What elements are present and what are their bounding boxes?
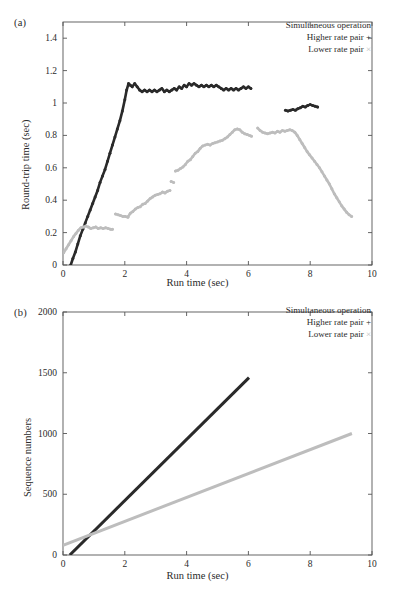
x-tick-label: 4 <box>184 269 189 279</box>
y-tick-label: 0.4 <box>21 195 57 205</box>
y-tick-label: 2000 <box>21 307 57 317</box>
panel-b-x-axis-title: Run time (sec) <box>0 570 395 581</box>
legend-entry-lower-label: Lower rate pair <box>308 329 363 339</box>
x-tick-label: 8 <box>308 269 313 279</box>
plus-marker-icon: + <box>366 32 371 42</box>
x-tick-label: 8 <box>308 559 313 569</box>
x-tick-label: 2 <box>122 559 127 569</box>
panel-b: (b) Run time (sec) Sequence numbers Simu… <box>0 297 395 595</box>
x-tick-label: 6 <box>246 559 251 569</box>
y-tick-label: 1.2 <box>21 66 57 76</box>
legend-entry-higher-rate-pair: Higher rate pair + <box>286 32 371 44</box>
plus-marker-icon: + <box>366 317 371 327</box>
legend-entry-lower-rate-pair: Lower rate pair × <box>286 329 371 341</box>
y-tick-label: 1500 <box>21 368 57 378</box>
panel-a-legend: Simultaneous operation Higher rate pair … <box>286 20 371 56</box>
y-tick-label: 1 <box>21 98 57 108</box>
panel-a: (a) Run time (sec) Round-trip time (sec)… <box>0 0 395 298</box>
y-tick-label: 0.6 <box>21 163 57 173</box>
x-tick-label: 4 <box>184 559 189 569</box>
figure-container: (a) Run time (sec) Round-trip time (sec)… <box>0 0 395 595</box>
x-tick-label: 2 <box>122 269 127 279</box>
x-tick-label: 0 <box>61 269 66 279</box>
x-tick-label: 10 <box>367 559 377 569</box>
y-tick-label: 500 <box>21 489 57 499</box>
legend-entry-higher-label: Higher rate pair <box>307 32 364 42</box>
legend-entry-higher-rate-pair: Higher rate pair + <box>286 317 371 329</box>
y-tick-label: 0.2 <box>21 228 57 238</box>
cross-marker-icon: × <box>366 329 371 339</box>
panel-a-x-axis-title: Run time (sec) <box>0 277 395 288</box>
y-tick-label: 1.4 <box>21 33 57 43</box>
y-tick-label: 0.8 <box>21 130 57 140</box>
y-tick-label: 0 <box>21 550 57 560</box>
cross-marker-icon: × <box>366 44 371 54</box>
legend-entry-lower-rate-pair: Lower rate pair × <box>286 44 371 56</box>
x-tick-label: 6 <box>246 269 251 279</box>
legend-title: Simultaneous operation <box>286 305 371 317</box>
panel-b-plot <box>0 297 395 595</box>
x-tick-label: 10 <box>367 269 377 279</box>
legend-title: Simultaneous operation <box>286 20 371 32</box>
y-tick-label: 1000 <box>21 429 57 439</box>
legend-entry-lower-label: Lower rate pair <box>308 44 363 54</box>
x-tick-label: 0 <box>61 559 66 569</box>
y-tick-label: 0 <box>21 260 57 270</box>
legend-entry-higher-label: Higher rate pair <box>307 317 364 327</box>
panel-b-legend: Simultaneous operation Higher rate pair … <box>286 305 371 341</box>
